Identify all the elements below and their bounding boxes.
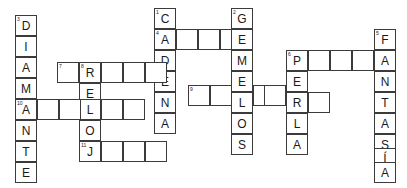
cell-letter: T [375, 97, 395, 109]
cell-letter: A [375, 55, 395, 67]
cell-letter: A [16, 104, 36, 116]
cell-perla-x1[interactable] [308, 50, 330, 71]
cell-letter: F [375, 34, 395, 46]
cell-perla-r[interactable]: R [286, 92, 308, 113]
cell-r7c4[interactable] [145, 62, 167, 83]
cell-r7c3[interactable] [123, 62, 145, 83]
cell-r2c1[interactable]: 4A [154, 29, 176, 50]
cell-letter: L [287, 118, 307, 130]
cell-perla-p[interactable]: 6P [286, 50, 308, 71]
cell-r3c3[interactable]: M [15, 78, 37, 99]
cell-r2c3[interactable] [198, 29, 220, 50]
cell-letter: N [155, 97, 175, 109]
cell-fant-a3[interactable]: A [374, 162, 396, 183]
cell-letter: A [155, 118, 175, 130]
cell-letter: C [155, 13, 175, 25]
cell-letter: E [287, 76, 307, 88]
cell-letter: S [232, 139, 252, 151]
cell-perla-a[interactable]: A [286, 134, 308, 155]
cell-perla-e[interactable]: E [286, 71, 308, 92]
cell-reloj-o[interactable]: O [79, 120, 101, 141]
cell-perla-x2[interactable] [330, 50, 352, 71]
cell-fant-t[interactable]: T [374, 92, 396, 113]
cell-r11c2[interactable] [123, 141, 145, 162]
cell-letter: J [80, 146, 100, 158]
cell-r3c4[interactable]: 10A [15, 99, 37, 120]
cell-letter: G [232, 13, 252, 25]
cell-reloj-j[interactable]: 11J [79, 141, 101, 162]
cell-r11c1[interactable] [101, 141, 123, 162]
cell-letter: N [375, 76, 395, 88]
cell-letter: E [16, 167, 36, 179]
cell-letter: A [287, 139, 307, 151]
cell-letter: A [375, 118, 395, 130]
cell-letter: I [16, 41, 36, 53]
cell-r10c5[interactable] [123, 99, 145, 120]
cell-r9c1[interactable] [210, 85, 232, 106]
cell-r3c6[interactable]: T [15, 141, 37, 162]
cell-letter: R [287, 97, 307, 109]
cell-r11c3[interactable] [145, 141, 167, 162]
cell-r10c4[interactable] [101, 99, 123, 120]
crossword-grid: 1C2G4AE5F3DIAM10ANTEDENAMELOS6PERLAANTAS… [0, 0, 407, 188]
cell-r7c2[interactable] [101, 62, 123, 83]
clue-number: 9 [190, 86, 193, 92]
cell-letter: M [232, 55, 252, 67]
cell-cadena-a[interactable]: A [154, 113, 176, 134]
cell-letter: L [232, 97, 252, 109]
cell-letter: A [16, 62, 36, 74]
cell-r3c5[interactable]: N [15, 120, 37, 141]
cell-r2c2[interactable] [176, 29, 198, 50]
cell-r3c7[interactable]: E [15, 162, 37, 183]
cell-r2c5[interactable]: E [231, 29, 253, 50]
cell-gem-m[interactable]: M [231, 50, 253, 71]
cell-letter: O [80, 125, 100, 137]
cell-letter: L [80, 104, 100, 116]
cell-letter: T [16, 146, 36, 158]
cell-letter: A [375, 167, 395, 179]
cell-letter: N [16, 125, 36, 137]
cell-letter: D [16, 20, 36, 32]
cell-r10c2[interactable] [59, 99, 81, 120]
cell-fant-n[interactable]: N [374, 71, 396, 92]
cell-letter: O [232, 118, 252, 130]
clue-number: 7 [59, 63, 62, 69]
cell-gem-e2[interactable]: E [231, 71, 253, 92]
cell-r2c6[interactable]: 5F [374, 29, 396, 50]
cell-r3c0[interactable]: 3D [15, 15, 37, 36]
cell-r9c0[interactable]: 9 [188, 85, 210, 106]
cell-cadena-n[interactable]: N [154, 92, 176, 113]
cell-letter: R [80, 67, 100, 79]
cell-letter: M [16, 83, 36, 95]
cell-r1c1[interactable]: 1C [154, 8, 176, 29]
cell-letter: A [155, 34, 175, 46]
cell-letter: P [287, 55, 307, 67]
cell-r3c1[interactable]: I [15, 36, 37, 57]
cell-fant-a2[interactable]: A [374, 113, 396, 134]
cell-r7c0[interactable]: 7 [57, 62, 79, 83]
cell-perla-x3[interactable] [352, 50, 374, 71]
cell-r9c6[interactable] [308, 92, 330, 113]
cell-r3c2[interactable]: A [15, 57, 37, 78]
cell-gem-o[interactable]: O [231, 113, 253, 134]
cell-letter: E [80, 88, 100, 100]
cell-fant-a1[interactable]: A [374, 50, 396, 71]
cell-letter: E [232, 76, 252, 88]
cell-reloj-l[interactable]: L [79, 99, 101, 120]
cell-letter: E [232, 34, 252, 46]
cell-r7c1[interactable]: 8R [79, 62, 101, 83]
cell-gem-l[interactable]: L [231, 92, 253, 113]
cell-r1c2[interactable]: 2G [231, 8, 253, 29]
cell-r10c1[interactable] [37, 99, 59, 120]
cell-gem-s[interactable]: S [231, 134, 253, 155]
cell-r9c4[interactable] [264, 85, 286, 106]
cell-perla-l[interactable]: L [286, 113, 308, 134]
